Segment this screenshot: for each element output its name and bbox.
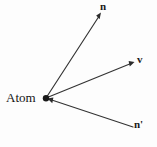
- vector-diagram-figure: Atom n v n': [0, 0, 157, 147]
- vector-arrowhead-n: [96, 13, 101, 20]
- atom-origin-label: Atom: [6, 91, 36, 104]
- vector-line-n-prime: [51, 100, 133, 127]
- vector-line-n: [46, 16, 100, 99]
- vector-line-v: [46, 63, 132, 98]
- atom-origin-dot: [43, 95, 49, 101]
- vector-arrowhead-v: [129, 61, 135, 67]
- vector-label-n-prime: n': [134, 119, 143, 130]
- vector-label-v: v: [137, 54, 143, 65]
- vector-label-n: n: [100, 1, 106, 12]
